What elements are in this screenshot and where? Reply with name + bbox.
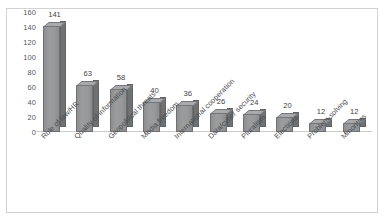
y-axis-tick-label: 20 (28, 114, 36, 121)
y-axis-tick-label: 100 (23, 54, 36, 61)
y-axis-tick-label: 60 (28, 84, 36, 91)
bar-value-label: 58 (105, 74, 138, 82)
y-axis-tick-label: 80 (28, 69, 36, 76)
bar-chart-figure: 160140120100806040200 141635840362624201… (0, 0, 389, 224)
bar-value-label: 141 (38, 11, 71, 19)
y-axis-tick-label: 160 (23, 9, 36, 16)
y-axis-tick-label: 120 (23, 39, 36, 46)
y-axis-tick-label: 40 (28, 99, 36, 106)
x-axis-category-labels: Rule of law/HRQuality of informationGeop… (0, 133, 372, 205)
y-axis-tick-label: 140 (23, 24, 36, 31)
bar-value-label: 36 (171, 90, 204, 98)
y-axis: 160140120100806040200 (6, 12, 36, 132)
bar-value-label: 63 (71, 70, 104, 78)
bar-value-label: 20 (271, 102, 304, 110)
